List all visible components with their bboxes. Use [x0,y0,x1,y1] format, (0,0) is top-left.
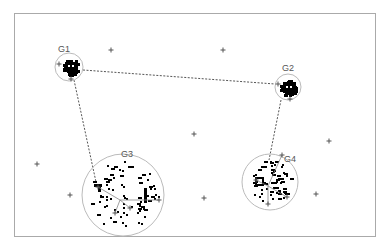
group-label: G4 [284,154,296,164]
groups: G1G2G3G4 [55,44,301,236]
outlier-plus-icon [314,192,319,197]
spoke-line [268,155,282,186]
spoke-line [120,200,130,208]
plus-marker-icon [57,62,62,67]
cluster-diagram: G1G2G3G4 [0,0,386,249]
plus-marker-icon [285,195,290,200]
group-label: G3 [121,149,133,159]
group-label: G2 [282,63,294,73]
group-g2: G2 [275,63,301,102]
group-g1: G1 [55,44,83,82]
group-connections [74,70,281,182]
group-points [280,80,298,97]
outlier-plus-icon [327,139,332,144]
outlier-plus-icon [192,132,197,137]
group-points [91,161,160,227]
plus-marker-icon [266,202,271,207]
group-g4: G4 [242,153,298,211]
plus-marker-icon [113,211,118,216]
group-points [63,60,80,77]
outlier-plus-icon [221,48,226,53]
outlier-plus-icon [109,48,114,53]
outlier-plus-icon [202,196,207,201]
connection-G2-G4 [269,100,281,160]
group-g3: G3 [82,149,164,236]
outlier-plus-icon [35,162,40,167]
group-label: G1 [58,44,70,54]
plus-marker-icon [288,97,293,102]
connection-G1-G2 [83,70,275,84]
plus-marker-icon [157,198,162,203]
outlier-plus-icon [68,193,73,198]
